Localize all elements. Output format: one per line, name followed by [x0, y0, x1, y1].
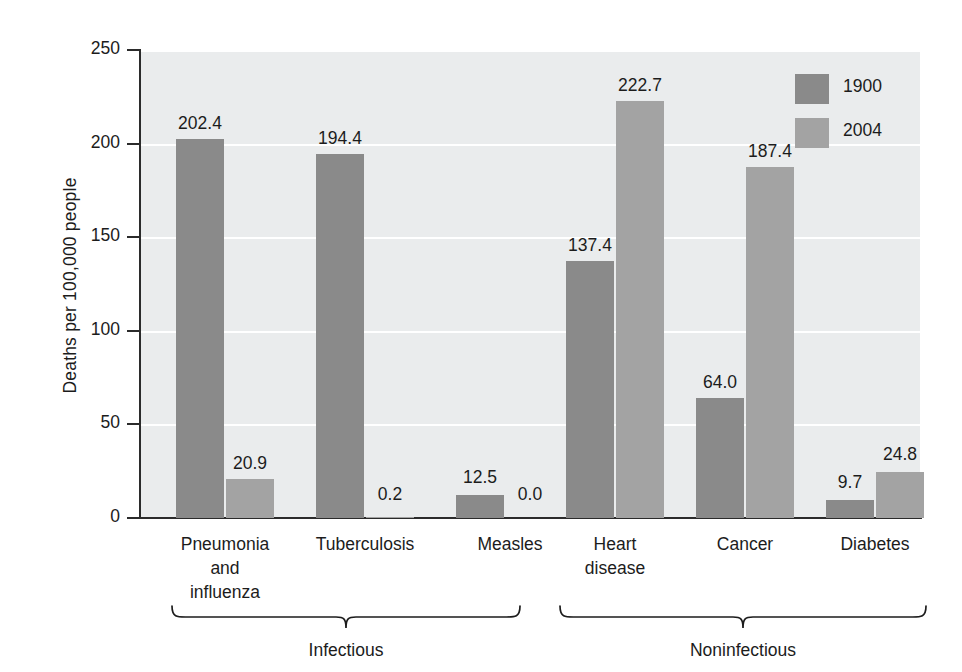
- bar-label-tuberculosis-2004: 0.2: [346, 484, 434, 505]
- bar-label-measles-2004: 0.0: [486, 484, 574, 505]
- gridline-100: [141, 331, 920, 333]
- group-label-infectious: Infectious: [168, 640, 524, 661]
- category-label-pneumonia-line2: and: [165, 556, 285, 580]
- category-label-measles: Measles: [450, 532, 570, 556]
- y-axis-line: [139, 49, 141, 519]
- bar-diabetes-2004: [876, 472, 924, 518]
- y-tick-label-50: 50: [50, 412, 120, 433]
- category-label-pneumonia: Pneumonia and influenza: [165, 532, 285, 604]
- legend-swatch-1900: [795, 74, 829, 104]
- brace-infectious: [168, 604, 524, 630]
- bar-tuberculosis-2004: [366, 517, 414, 518]
- gridline-50: [141, 424, 920, 426]
- legend-swatch-2004: [795, 118, 829, 148]
- y-tick-mark-50: [127, 423, 140, 425]
- category-label-tuberculosis: Tuberculosis: [300, 532, 430, 556]
- legend-label-1900: 1900: [843, 76, 882, 97]
- bar-heart-2004: [616, 101, 664, 518]
- bar-label-pneumonia-2004: 20.9: [206, 453, 294, 474]
- y-tick-label-150: 150: [50, 225, 120, 246]
- group-label-noninfectious: Noninfectious: [556, 640, 930, 661]
- category-label-diabetes: Diabetes: [815, 532, 935, 556]
- y-tick-mark-200: [127, 143, 140, 145]
- y-tick-mark-0: [127, 517, 140, 519]
- y-tick-label-0: 0: [50, 506, 120, 527]
- category-label-heart-line2: disease: [555, 556, 675, 580]
- brace-noninfectious: [556, 604, 930, 630]
- bar-pneumonia-2004: [226, 479, 274, 518]
- category-label-pneumonia-line1: Pneumonia: [165, 532, 285, 556]
- bar-tuberculosis-1900: [316, 154, 364, 518]
- legend-label-2004: 2004: [843, 120, 882, 141]
- gridline-250: [141, 50, 920, 52]
- gridline-150: [141, 237, 920, 239]
- category-label-heart-line1: Heart: [555, 532, 675, 556]
- y-tick-label-100: 100: [50, 319, 120, 340]
- y-tick-label-250: 250: [50, 38, 120, 59]
- bar-label-heart-2004: 222.7: [596, 75, 684, 96]
- bar-chart-figure: Deaths per 100,000 people 250 200 150 10…: [0, 0, 962, 672]
- bar-label-pneumonia-1900: 202.4: [156, 113, 244, 134]
- y-tick-label-200: 200: [50, 132, 120, 153]
- bar-label-tuberculosis-1900: 194.4: [296, 128, 384, 149]
- y-tick-mark-100: [127, 330, 140, 332]
- y-tick-mark-150: [127, 236, 140, 238]
- bar-cancer-2004: [746, 167, 794, 518]
- bar-label-diabetes-2004: 24.8: [856, 444, 944, 465]
- bar-heart-1900: [566, 261, 614, 518]
- category-label-pneumonia-line3: influenza: [165, 580, 285, 604]
- y-tick-mark-250: [127, 49, 140, 51]
- category-label-cancer: Cancer: [685, 532, 805, 556]
- bar-diabetes-1900: [826, 500, 874, 518]
- bar-cancer-1900: [696, 398, 744, 518]
- category-label-heart: Heart disease: [555, 532, 675, 580]
